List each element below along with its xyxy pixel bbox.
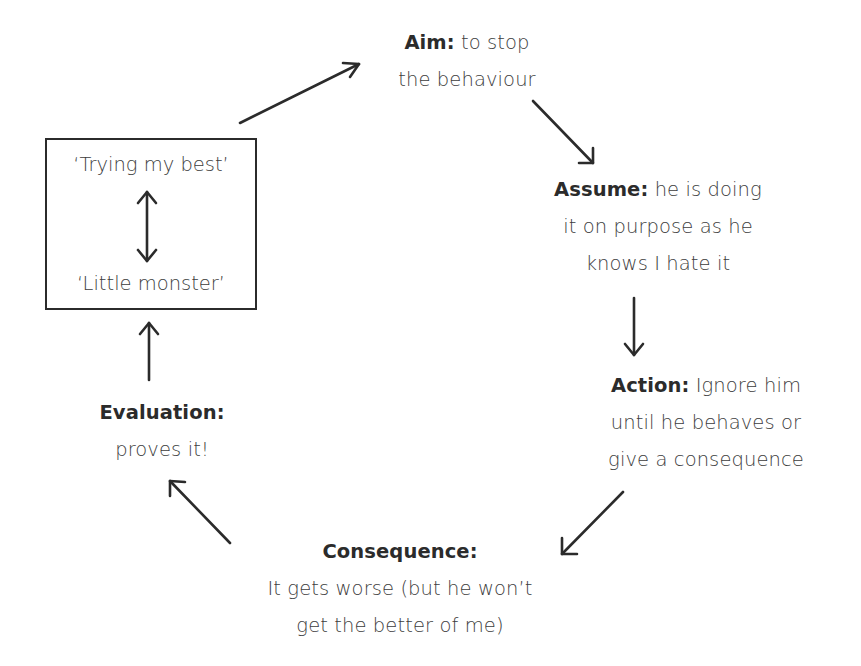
node-assume-title: Assume: — [554, 178, 648, 201]
arrow-evaluation-to-box-icon — [140, 323, 158, 380]
node-aim: Aim: to stop the behaviour — [367, 24, 567, 98]
node-action-line-3: give a consequence — [576, 441, 836, 478]
node-aim-title: Aim: — [404, 31, 454, 54]
node-consequence-line-2: get the better of me) — [240, 607, 560, 644]
node-consequence-line-1: It gets worse (but he won’t — [240, 570, 560, 607]
box-bottom-label: ‘Little monster’ — [47, 272, 255, 295]
arrow-consequence-to-evaluation-icon — [170, 481, 230, 543]
node-assume-line-1: he is doing — [655, 178, 762, 201]
arrow-assume-to-action-icon — [625, 298, 643, 355]
node-action-line-2: until he behaves or — [576, 404, 836, 441]
node-consequence-title: Consequence: — [322, 540, 477, 563]
node-assume-line-2: it on purpose as he — [528, 208, 788, 245]
node-evaluation-title: Evaluation: — [99, 401, 224, 424]
box-top-label: ‘Trying my best’ — [47, 153, 255, 176]
arrow-action-to-consequence-icon — [562, 492, 623, 554]
arrow-aim-to-assume-icon — [533, 101, 593, 163]
node-consequence: Consequence: It gets worse (but he won’t… — [240, 533, 560, 644]
arrow-box-to-aim-icon — [240, 63, 359, 123]
node-aim-line-1: to stop — [461, 31, 530, 54]
node-action: Action: Ignore him until he behaves or g… — [576, 367, 836, 478]
node-assume: Assume: he is doing it on purpose as he … — [528, 171, 788, 282]
node-action-line-1: Ignore him — [696, 374, 801, 397]
node-aim-line-2: the behaviour — [367, 61, 567, 98]
self-label-box: ‘Trying my best’ ‘Little monster’ — [45, 138, 257, 310]
node-evaluation: Evaluation: proves it! — [72, 394, 252, 468]
node-evaluation-line-1: proves it! — [72, 431, 252, 468]
node-assume-line-3: knows I hate it — [528, 245, 788, 282]
node-action-title: Action: — [611, 374, 689, 397]
